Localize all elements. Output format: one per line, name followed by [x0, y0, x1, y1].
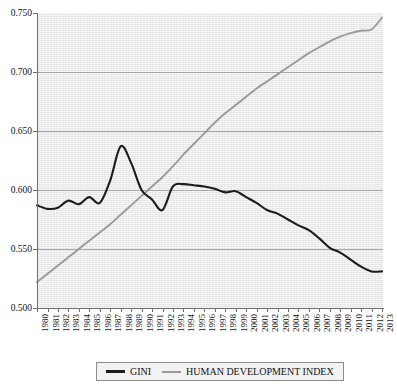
x-axis-tick: [236, 309, 237, 312]
x-axis-tick-label: 2005: [302, 314, 311, 332]
x-axis-tick-label: 1999: [240, 314, 249, 332]
x-axis-tick: [340, 309, 341, 312]
x-axis-tick-label: 2013: [386, 314, 395, 332]
x-axis-tick: [361, 309, 362, 312]
x-axis-tick-label: 1991: [156, 314, 165, 332]
x-axis-tick: [278, 309, 279, 312]
y-axis-tick-label: 0.500: [0, 303, 32, 313]
line-swatch-gray-icon: [162, 371, 181, 373]
y-axis-tick: [33, 190, 37, 191]
legend-label-gini: GINI: [130, 366, 151, 377]
x-axis-tick: [382, 309, 383, 312]
y-axis-tick: [33, 72, 37, 73]
x-axis-tick-label: 2010: [355, 314, 364, 332]
x-axis-tick-label: 2009: [344, 314, 353, 332]
x-axis-tick-label: 2007: [323, 314, 332, 332]
chart-figure: 0.7500.7000.6500.6000.5500.500 198019811…: [0, 0, 397, 392]
x-axis-tick-label: 1997: [219, 314, 228, 332]
x-axis-tick-label: 2002: [271, 314, 280, 332]
y-axis-tick: [33, 249, 37, 250]
y-axis-tick-label: 0.600: [0, 185, 32, 195]
x-axis-tick-label: 1987: [114, 314, 123, 332]
x-axis-tick: [298, 309, 299, 312]
plot-area: [37, 13, 383, 308]
y-axis-tick: [33, 131, 37, 132]
x-axis-tick: [246, 309, 247, 312]
x-axis-tick: [288, 309, 289, 312]
y-axis-tick: [33, 13, 37, 14]
y-axis-tick-label: 0.750: [0, 8, 32, 18]
x-axis-tick-label: 1994: [187, 314, 196, 332]
y-axis-tick-label: 0.650: [0, 126, 32, 136]
x-axis-tick: [89, 309, 90, 312]
x-axis-tick: [309, 309, 310, 312]
x-axis-tick: [194, 309, 195, 312]
x-axis-tick: [37, 309, 38, 312]
x-axis-tick-label: 1989: [135, 314, 144, 332]
x-axis-tick: [319, 309, 320, 312]
x-axis-tick: [163, 309, 164, 312]
x-axis-tick-label: 2006: [313, 314, 322, 332]
legend-item-gini: GINI: [106, 366, 151, 377]
x-axis-tick-label: 1990: [146, 314, 155, 332]
x-axis-tick: [267, 309, 268, 312]
x-axis-tick-label: 1980: [41, 314, 50, 332]
x-axis-tick: [110, 309, 111, 312]
x-axis-tick-label: 1992: [167, 314, 176, 332]
x-axis-tick-label: 1986: [104, 314, 113, 332]
x-axis-tick: [121, 309, 122, 312]
x-axis-tick: [204, 309, 205, 312]
x-axis-tick: [48, 309, 49, 312]
x-axis-tick: [58, 309, 59, 312]
x-axis-tick: [225, 309, 226, 312]
x-axis-tick: [152, 309, 153, 312]
x-axis-tick-label: 2001: [261, 314, 270, 332]
x-axis-tick-label: 1985: [93, 314, 102, 332]
x-axis-tick: [79, 309, 80, 312]
y-axis-line: [37, 13, 38, 309]
x-axis-tick-label: 1983: [72, 314, 81, 332]
series-layer: [37, 13, 383, 308]
line-swatch-dark-icon: [106, 370, 125, 372]
x-axis-tick: [372, 309, 373, 312]
x-axis-tick-label: 2003: [282, 314, 291, 332]
x-axis-tick-label: 1996: [208, 314, 217, 332]
chart-legend: GINI HUMAN DEVELOPMENT INDEX: [96, 362, 344, 381]
legend-item-human-development-index: HUMAN DEVELOPMENT INDEX: [162, 366, 334, 377]
x-axis-tick-label: 1984: [83, 314, 92, 332]
x-axis-tick-label: 2008: [334, 314, 343, 332]
x-axis-tick-label: 1998: [229, 314, 238, 332]
x-axis-tick: [215, 309, 216, 312]
x-axis-tick: [351, 309, 352, 312]
x-axis-tick-label: 1988: [125, 314, 134, 332]
x-axis-tick: [330, 309, 331, 312]
x-axis-tick-label: 2011: [365, 314, 374, 332]
x-axis-tick: [257, 309, 258, 312]
legend-label-human-development-index: HUMAN DEVELOPMENT INDEX: [186, 366, 334, 377]
x-axis-tick-label: 2000: [250, 314, 259, 332]
x-axis-tick: [68, 309, 69, 312]
series-line-human-development-index: [37, 18, 382, 282]
x-axis-tick-label: 1981: [52, 314, 61, 332]
x-axis-tick-label: 1982: [62, 314, 71, 332]
x-axis-tick-label: 1993: [177, 314, 186, 332]
series-line-gini: [37, 146, 382, 272]
x-axis-tick-label: 2012: [376, 314, 385, 332]
x-axis-tick: [100, 309, 101, 312]
x-axis-tick-label: 1995: [198, 314, 207, 332]
y-axis-tick-label: 0.550: [0, 244, 32, 254]
x-axis-tick: [173, 309, 174, 312]
y-axis-tick-label: 0.700: [0, 67, 32, 77]
x-axis-tick: [183, 309, 184, 312]
x-axis-tick-label: 2004: [292, 314, 301, 332]
x-axis-tick: [131, 309, 132, 312]
x-axis-tick: [142, 309, 143, 312]
